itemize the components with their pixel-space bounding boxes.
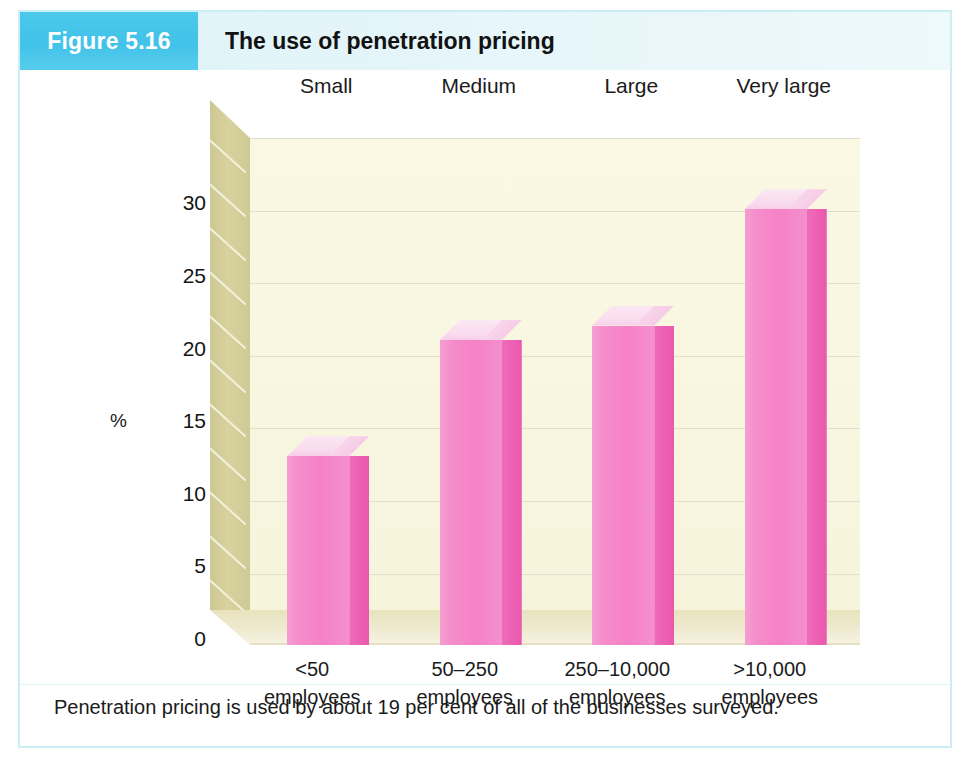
category-size-label: Small [250,70,403,102]
y-axis-tick-label: 30 [140,191,206,215]
bar-side-face [502,340,522,645]
y-axis-tick-labels: 051015202530 [140,70,206,690]
y-axis-tick-label: 0 [140,627,206,651]
category-label-line-1: 50–250 [389,655,542,683]
bar-side-face [654,326,674,646]
y-axis-tick-label: 15 [140,409,206,433]
y-axis-tick-label: 10 [140,482,206,506]
figure-caption: Penetration pricing is used by about 19 … [54,696,914,719]
category-label-line-1: 250–10,000 [541,655,694,683]
chart-area: % 051015202530 SmallMediumLargeVery larg… [20,70,950,690]
caption-divider [20,684,950,685]
figure-root: Figure 5.16 The use of penetration prici… [0,0,970,772]
bar-front-face [440,340,502,645]
bar-series [210,100,860,645]
figure-number-label: Figure 5.16 [47,28,171,55]
category-size-label: Very large [708,70,861,102]
y-axis-tick-label: 5 [140,554,206,578]
category-label-line-1: >10,000 [694,655,847,683]
category-label-line-1: <50 [236,655,389,683]
bar-front-face [745,209,807,645]
bar-front-face [287,456,349,645]
bar-side-face [349,456,369,645]
category-size-label: Medium [403,70,556,102]
figure-frame: Figure 5.16 The use of penetration prici… [18,10,952,748]
bar-side-face [807,209,827,645]
bar-column[interactable] [287,456,349,645]
bar-column[interactable] [440,340,502,645]
bar-column[interactable] [592,326,654,646]
category-size-label: Large [555,70,708,102]
y-axis-tick-label: 20 [140,337,206,361]
figure-title: The use of penetration pricing [225,12,555,70]
y-axis-tick-label: 25 [140,264,206,288]
bar-front-face [592,326,654,646]
figure-number-badge: Figure 5.16 [20,12,198,70]
bar-column[interactable] [745,209,807,645]
figure-header: Figure 5.16 The use of penetration prici… [20,12,950,70]
y-axis-title: % [110,410,127,432]
